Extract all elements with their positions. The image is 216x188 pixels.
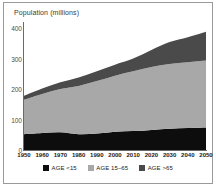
legend-swatch-icon-0 (43, 165, 49, 171)
y-axis-tick-100: 100 (11, 116, 22, 123)
chart-figure: Population (millions) 0100200300400 1950… (0, 0, 216, 188)
x-axis-line (23, 150, 207, 151)
y-axis-tick-200: 200 (11, 86, 22, 93)
legend-label-2: AGE >65 (148, 165, 173, 171)
x-axis-tick-1950: 1950 (17, 152, 30, 158)
x-axis-tick-2040: 2040 (181, 152, 194, 158)
x-axis-tick-2050: 2050 (199, 152, 212, 158)
legend-label-1: AGE 15–65 (96, 165, 128, 171)
x-axis-tick-1970: 1970 (54, 152, 67, 158)
x-axis-tick-2020: 2020 (145, 152, 158, 158)
y-axis-tick-400: 400 (11, 25, 22, 32)
legend-label-0: AGE <15 (52, 165, 77, 171)
legend-swatch-icon-2 (139, 165, 145, 171)
legend-item-2[interactable]: AGE >65 (139, 165, 173, 171)
legend-item-0[interactable]: AGE <15 (43, 165, 77, 171)
stacked-area-svg (24, 22, 206, 150)
x-axis-tick-2000: 2000 (108, 152, 121, 158)
plot-area (24, 22, 206, 150)
chart-legend: AGE <15AGE 15–65AGE >65 (0, 165, 216, 171)
legend-item-1[interactable]: AGE 15–65 (88, 165, 128, 171)
x-axis-tick-1960: 1960 (36, 152, 49, 158)
x-axis-tick-2030: 2030 (163, 152, 176, 158)
y-axis-tick-labels: 0100200300400 (0, 0, 24, 152)
x-axis-tick-1990: 1990 (90, 152, 103, 158)
x-axis-tick-1980: 1980 (72, 152, 85, 158)
y-axis-tick-300: 300 (11, 55, 22, 62)
legend-swatch-icon-1 (88, 165, 94, 171)
x-axis-tick-2010: 2010 (127, 152, 140, 158)
x-axis-tick-labels: 1950196019701980199020002010202020302040… (24, 152, 206, 162)
